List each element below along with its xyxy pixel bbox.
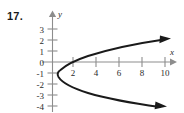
x-tick-label-2: 2 bbox=[71, 68, 76, 78]
y-tick-label-neg3: -3 bbox=[37, 91, 45, 101]
x-tick-label-10: 10 bbox=[161, 68, 171, 78]
x-tick-label-4: 4 bbox=[94, 68, 99, 78]
y-axis-label: y bbox=[57, 9, 62, 19]
y-tick-label-1: 1 bbox=[40, 47, 45, 57]
y-tick-label-neg1: -1 bbox=[37, 69, 45, 79]
curve-upper-arrowhead bbox=[159, 36, 171, 44]
y-tick-label-0: 0 bbox=[40, 58, 45, 68]
curve-lower-arrowhead bbox=[155, 102, 167, 110]
coordinate-plane-plot: 2 4 6 8 10 3 2 1 0 -1 -2 -3 -4 x y bbox=[0, 0, 184, 112]
y-axis-group bbox=[48, 11, 58, 113]
x-axis-arrowhead bbox=[170, 58, 177, 65]
x-axis-group bbox=[42, 57, 177, 67]
x-tick-label-6: 6 bbox=[117, 68, 122, 78]
y-axis-arrowhead bbox=[49, 11, 56, 18]
y-tick-label-2: 2 bbox=[40, 36, 45, 46]
x-tick-label-8: 8 bbox=[140, 68, 145, 78]
y-tick-label-3: 3 bbox=[40, 25, 45, 35]
figure-container: 17. 2 4 6 8 10 3 bbox=[0, 0, 184, 112]
y-tick-label-neg2: -2 bbox=[37, 80, 45, 90]
y-tick-label-neg4: -4 bbox=[37, 102, 45, 112]
x-axis-label: x bbox=[169, 47, 174, 57]
